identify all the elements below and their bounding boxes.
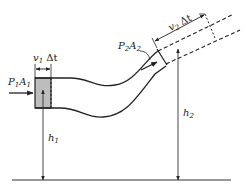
- diagram-canvas: P1A1 P2A2 v1 Δt v2 Δt h1 h2: [0, 0, 246, 195]
- outlet-dashed-bottom: [166, 30, 240, 64]
- h1-label: h1: [48, 132, 59, 145]
- outlet-dashed-end: [205, 14, 215, 38]
- h2-label: h2: [183, 107, 194, 120]
- bernoulli-pipe-diagram: P1A1 P2A2 v1 Δt v2 Δt h1 h2: [0, 0, 246, 195]
- outlet-end-cap: [157, 49, 167, 65]
- v2dt-label: v2 Δt: [166, 12, 194, 35]
- v2dt-extension-left: [152, 38, 157, 48]
- p1a1-label: P1A1: [7, 76, 31, 89]
- v1dt-label: v1 Δt: [33, 52, 58, 65]
- pipe-bottom-wall: [35, 66, 166, 117]
- p2a2-label: P2A2: [117, 40, 141, 53]
- p2a2-leader-line: [140, 51, 150, 60]
